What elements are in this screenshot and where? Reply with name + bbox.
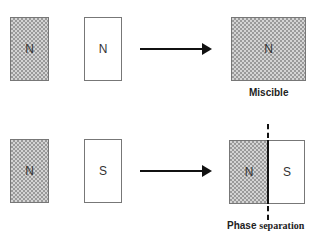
miscible-caption: Miscible <box>249 87 288 98</box>
arrow-right-icon <box>140 170 204 172</box>
polymer-n-box-row1-middle: N <box>84 17 122 81</box>
box-label: N <box>245 165 254 179</box>
polymer-n-box-row1-left: N <box>10 17 49 81</box>
phase-boundary-line <box>267 140 269 204</box>
arrow-right-icon <box>140 48 204 50</box>
caption-word-phase: Phase <box>227 220 256 231</box>
box-label: S <box>99 164 107 178</box>
polymer-s-box-row2-middle: S <box>84 139 122 203</box>
caption-word-separation: separation <box>259 220 304 231</box>
phase-boundary-dash-bottom <box>267 206 269 220</box>
phase-s-region: S <box>270 141 304 203</box>
box-label: N <box>264 42 273 56</box>
box-label: S <box>283 165 291 179</box>
box-label: N <box>25 42 34 56</box>
miscible-result-box: N <box>231 17 306 81</box>
phase-separation-caption: Phase separation <box>227 220 304 231</box>
phase-boundary-dash-top <box>267 124 269 138</box>
polymer-n-box-row2-left: N <box>10 139 49 203</box>
phase-n-region: N <box>230 141 268 203</box>
box-label: N <box>25 164 34 178</box>
box-label: N <box>99 42 108 56</box>
